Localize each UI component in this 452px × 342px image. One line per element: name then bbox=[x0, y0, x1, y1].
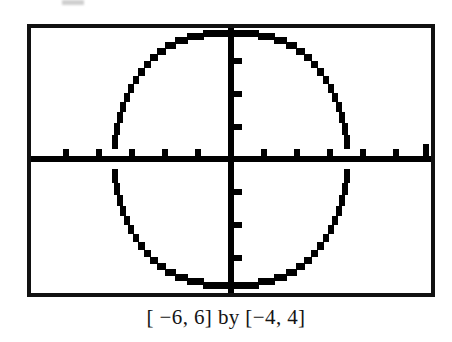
plot-svg bbox=[31, 28, 431, 293]
window-range-caption: [ −6, 6] by [−4, 4] bbox=[0, 302, 452, 332]
graphing-calculator-figure: [ −6, 6] by [−4, 4] bbox=[0, 0, 452, 342]
plot-area bbox=[31, 28, 431, 293]
scan-artifact-smudge bbox=[62, 0, 84, 5]
calculator-screen-frame bbox=[27, 24, 435, 297]
